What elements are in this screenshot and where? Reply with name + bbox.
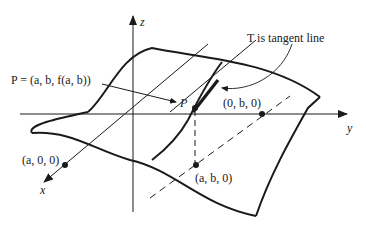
trace-curve [152, 62, 222, 160]
tangent-pointer-arrow [222, 44, 292, 89]
point-0b0-dot [259, 111, 265, 117]
surface-edge-left [31, 112, 88, 133]
surface-diagram: z y x P = (a, b, f(a, b)) P T is tangent… [0, 0, 366, 227]
P-pointer-arrow [102, 84, 176, 102]
surface-edge-top [88, 48, 320, 112]
point-ab0-dot [193, 162, 199, 168]
point-a00-dot [62, 162, 68, 168]
y-axis-label: y [347, 122, 352, 134]
point-0b0-label: (0, b, 0) [223, 97, 261, 109]
tangent-note: T is tangent line [247, 32, 324, 44]
point-P-dot [192, 105, 198, 111]
point-ab0-label: (a, b, 0) [195, 172, 232, 184]
surface-edge-right [256, 97, 320, 216]
point-a00-label: (a, 0, 0) [22, 154, 59, 166]
point-P-label: P [180, 97, 187, 109]
x-axis-label: x [40, 184, 45, 196]
point-P-definition: P = (a, b, f(a, b)) [11, 74, 91, 86]
z-axis-label: z [140, 16, 145, 28]
